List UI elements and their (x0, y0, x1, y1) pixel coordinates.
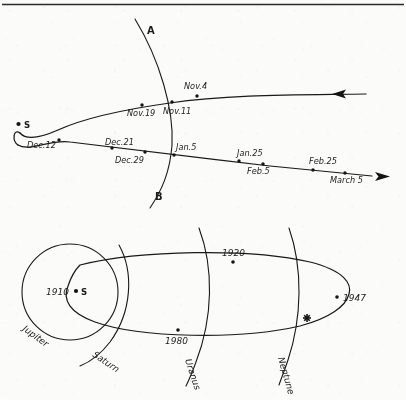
date-dot-jan-25 (237, 159, 240, 162)
comet-orbit-figure: S A B Nov.4 Nov.11 Nov.19 Dec.12 Dec.21 … (0, 0, 406, 400)
date-label-jan-5: Jan.5 (174, 142, 196, 152)
date-label-feb-5: Feb.5 (247, 166, 270, 176)
comet-perihelion-loop (14, 132, 20, 145)
date-label-jan-25: Jan.25 (235, 148, 263, 158)
date-label-nov-4: Nov.4 (184, 81, 207, 91)
date-dot-dec-12 (57, 138, 60, 141)
sun-marker-dot-bottom (74, 289, 78, 293)
bottom-panel-orbit: Jupiter Saturn Uranus Neptune S 1910 192… (19, 228, 366, 396)
year-label-1980: 1980 (165, 336, 188, 346)
date-label-nov-19: Nov.19 (127, 108, 155, 118)
top-panel-comet-path: S A B Nov.4 Nov.11 Nov.19 Dec.12 Dec.21 … (14, 19, 390, 208)
year-dot-1947 (335, 295, 339, 299)
date-label-nov-11: Nov.11 (163, 106, 191, 116)
comet-position-star-icon (303, 314, 311, 322)
date-dot-nov-19 (140, 103, 143, 106)
sun-label-top: S (24, 120, 30, 130)
date-label-dec-29: Dec.29 (115, 155, 144, 165)
top-panel-date-dots (57, 94, 346, 174)
neptune-orbit-label: Neptune (276, 356, 296, 396)
arc-label-b: B (155, 191, 163, 202)
date-dot-nov-4 (195, 94, 198, 97)
sun-marker-dot-top (16, 122, 20, 126)
year-dot-1920 (231, 260, 235, 264)
jupiter-orbit-circle (22, 244, 118, 340)
year-dot-1980 (176, 328, 180, 332)
date-dot-nov-11 (170, 100, 173, 103)
outgoing-arrowhead-icon (375, 172, 390, 181)
year-label-1920: 1920 (222, 248, 245, 258)
date-label-feb-25: Feb.25 (309, 156, 337, 166)
year-label-1947: 1947 (343, 293, 366, 303)
comet-incoming-branch (20, 94, 366, 137)
date-label-dec-21: Dec.21 (105, 137, 134, 147)
sun-label-bottom: S (81, 287, 87, 297)
date-label-march-5: March 5 (330, 175, 363, 185)
year-label-1910: 1910 (46, 287, 69, 297)
arc-label-a: A (147, 25, 155, 36)
date-dot-feb-25 (311, 168, 314, 171)
date-label-dec-12: Dec.12 (27, 140, 56, 150)
date-dot-jan-5 (172, 153, 175, 156)
date-dot-dec-29 (143, 150, 146, 153)
saturn-orbit-label: Saturn (91, 349, 122, 374)
jupiter-orbit-label: Jupiter (19, 322, 51, 349)
